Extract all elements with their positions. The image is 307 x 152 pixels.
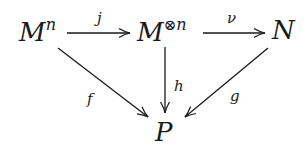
node-m-n-base: M [19, 17, 46, 47]
node-m-tensor-n-sup: n [176, 15, 186, 34]
commutative-diagram: Mn M⊗n N P j ν f h g [0, 0, 307, 152]
arrow-f [58, 48, 148, 117]
node-m-tensor-n-base: M [137, 17, 164, 47]
otimes-symbol: ⊗ [164, 16, 177, 34]
node-p-base: P [155, 117, 173, 147]
label-f: f [87, 92, 93, 107]
label-g: g [230, 89, 240, 104]
node-n: N [272, 17, 295, 43]
label-h: h [174, 79, 184, 94]
node-m-n-sup: n [46, 15, 56, 34]
node-m-tensor-n: M⊗n [137, 17, 187, 45]
node-m-n: Mn [19, 17, 56, 45]
node-n-base: N [272, 15, 295, 45]
node-p: P [155, 119, 173, 145]
label-j: j [97, 11, 102, 26]
label-nu: ν [227, 11, 236, 26]
arrow-g [185, 48, 268, 117]
